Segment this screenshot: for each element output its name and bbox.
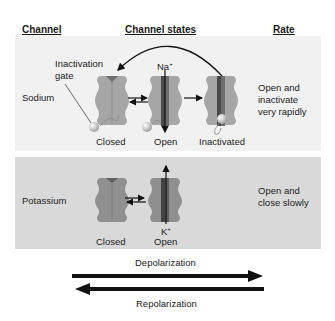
sodium-closed-channel — [95, 76, 129, 125]
depolarization-arrow — [72, 270, 263, 282]
sodium-inactivated-gate-ball — [217, 114, 227, 124]
sodium-open-gate-ball — [142, 122, 152, 132]
potassium-open-channel — [148, 178, 182, 222]
sodium-closed-gate-ball — [89, 122, 99, 132]
diagram-graphics — [0, 0, 335, 321]
recovery-curved-arrow — [118, 46, 222, 76]
potassium-closed-channel — [95, 178, 129, 222]
sodium-equilibrium-arrows — [128, 98, 148, 102]
repolarization-arrow — [75, 283, 264, 295]
gate-pointer-line — [65, 84, 91, 123]
